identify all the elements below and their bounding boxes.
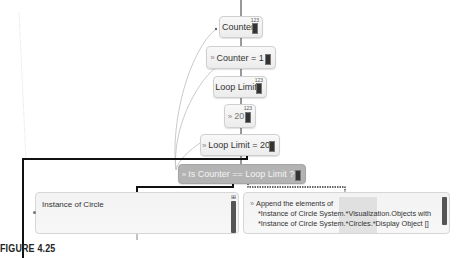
drag-handle-icon[interactable] bbox=[269, 141, 275, 152]
counter-node[interactable]: 123 Counter bbox=[219, 16, 263, 38]
node-label: Is Counter == Loop Limit ? bbox=[188, 169, 294, 179]
instance-of-circle-box[interactable]: Instance of Circle ⊞ bbox=[35, 192, 239, 234]
chevron-icon: » bbox=[210, 53, 214, 62]
set-loop-limit-node[interactable]: » Loop Limit = 20 bbox=[200, 134, 280, 156]
node-label: Counter = 1 bbox=[217, 53, 264, 63]
drag-handle-icon[interactable] bbox=[442, 197, 447, 225]
chevron-icon: » bbox=[182, 170, 186, 179]
node-label: Counter bbox=[222, 22, 254, 32]
append-line-3: *Instance of Circle System.*Circles.*Dis… bbox=[250, 219, 431, 229]
type-badge: 123 bbox=[244, 105, 252, 111]
loop-limit-node[interactable]: 123 Loop Limit bbox=[213, 76, 267, 98]
append-line-2: *Instance of Circle System.*Visualizatio… bbox=[250, 209, 431, 219]
constant-20-node[interactable]: 123 » 20 bbox=[224, 104, 256, 128]
drag-handle-icon[interactable] bbox=[256, 83, 262, 94]
chevron-icon: » bbox=[202, 141, 206, 150]
connector-dot bbox=[33, 211, 36, 214]
node-label: Loop Limit = 20 bbox=[208, 140, 270, 150]
drag-handle-icon[interactable] bbox=[295, 170, 301, 181]
instance-label: Instance of Circle bbox=[42, 200, 104, 209]
node-label: Loop Limit bbox=[215, 82, 257, 92]
expand-icon[interactable]: ⊞ bbox=[231, 193, 236, 200]
drag-handle-icon[interactable] bbox=[252, 23, 258, 34]
chevron-icon: » bbox=[250, 199, 254, 208]
drag-handle-icon[interactable] bbox=[231, 201, 236, 233]
append-line-1: Append the elements of bbox=[256, 199, 333, 208]
set-counter-node[interactable]: » Counter = 1 bbox=[206, 46, 276, 69]
append-elements-box[interactable]: »Append the elements of *Instance of Cir… bbox=[243, 192, 450, 234]
drag-handle-icon[interactable] bbox=[245, 112, 251, 123]
chevron-icon: » bbox=[228, 112, 232, 121]
figure-caption: FIGURE 4.25 bbox=[0, 242, 55, 254]
flow-canvas: 123 Counter » Counter = 1 123 Loop Limit… bbox=[0, 0, 465, 258]
node-label: 20 bbox=[234, 111, 244, 121]
condition-node[interactable]: » Is Counter == Loop Limit ? bbox=[178, 164, 306, 184]
drag-handle-icon[interactable] bbox=[265, 54, 271, 65]
